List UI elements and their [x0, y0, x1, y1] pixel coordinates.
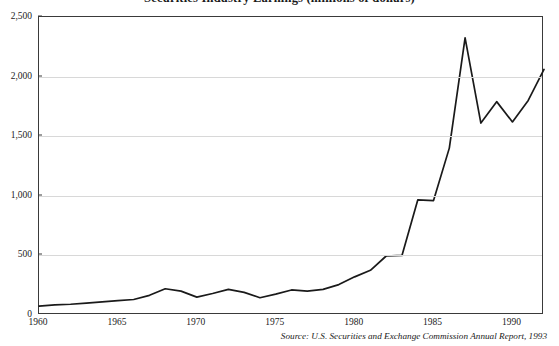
- x-tick-label: 1960: [29, 317, 48, 327]
- y-tick-mark: [38, 194, 42, 195]
- y-tick-label: 1,500: [11, 130, 32, 140]
- y-tick-mark: [38, 135, 42, 136]
- data-series-line: [39, 17, 544, 315]
- y-axis: 05001,0001,5002,0002,500: [0, 16, 32, 314]
- chart-figure: Securities Industry Earnings (millions o…: [0, 0, 559, 346]
- x-tick-label: 1965: [107, 317, 126, 327]
- x-tick-label: 1980: [344, 317, 363, 327]
- plot-area: [38, 16, 543, 314]
- y-tick-mark: [38, 16, 42, 17]
- gridline: [39, 255, 542, 256]
- y-tick-label: 2,500: [11, 11, 32, 21]
- x-tick-label: 1990: [502, 317, 521, 327]
- gridline: [39, 77, 542, 78]
- gridline: [39, 196, 542, 197]
- x-tick-label: 1975: [265, 317, 284, 327]
- y-tick-label: 1,000: [11, 190, 32, 200]
- y-tick-label: 2,000: [11, 71, 32, 81]
- y-tick-label: 500: [18, 249, 32, 259]
- x-tick-label: 1970: [186, 317, 205, 327]
- x-tick-label: 1985: [423, 317, 442, 327]
- source-note: Source: U.S. Securities and Exchange Com…: [281, 331, 547, 341]
- chart-title: Securities Industry Earnings (millions o…: [0, 0, 559, 6]
- y-tick-mark: [38, 254, 42, 255]
- gridline: [39, 136, 542, 137]
- y-tick-mark: [38, 75, 42, 76]
